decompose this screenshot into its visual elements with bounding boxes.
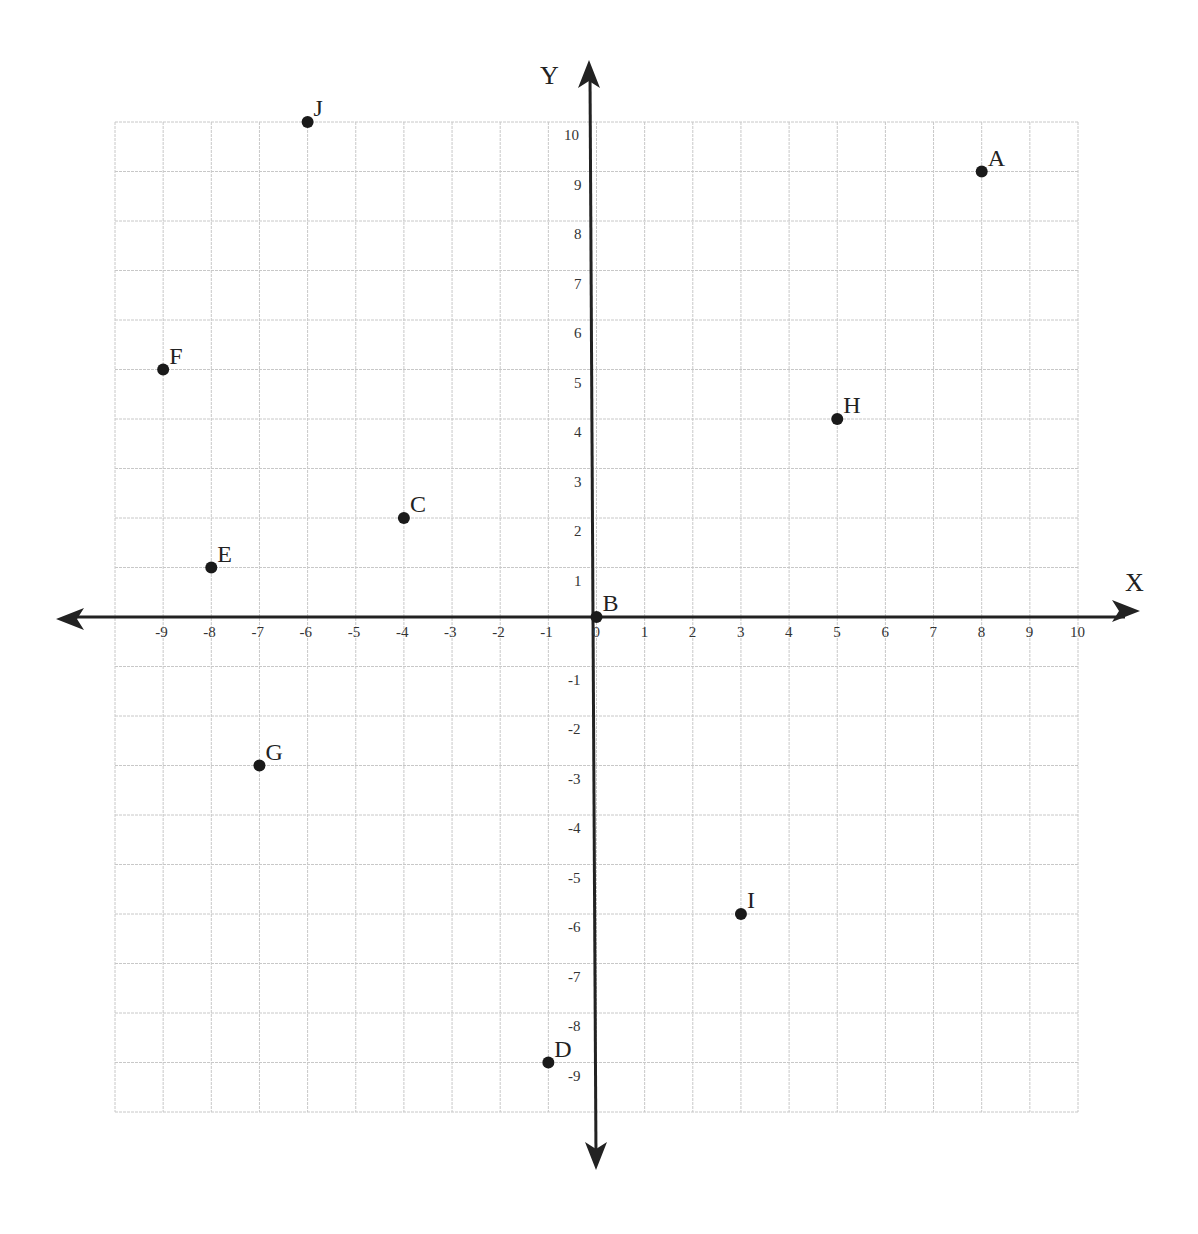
point-marker-icon (831, 413, 843, 425)
coordinate-plane: Y X -9-8-7-6-5-4-3-2-1012345678910 10987… (0, 0, 1198, 1234)
y-tick-label: 8 (574, 226, 582, 242)
x-tick-label: -8 (203, 624, 216, 640)
x-tick-label: -6 (300, 624, 313, 640)
y-tick-label: 7 (574, 276, 582, 292)
point-marker-icon (253, 760, 265, 772)
y-tick-label: -2 (568, 721, 581, 737)
y-tick-label: -4 (568, 820, 581, 836)
point-label: H (843, 392, 860, 418)
y-tick-label: 1 (574, 573, 582, 589)
y-tick-label: -5 (568, 870, 581, 886)
y-tick-label: 4 (574, 424, 582, 440)
point-label: A (988, 145, 1006, 171)
y-tick-label: -7 (568, 969, 581, 985)
point-j: J (302, 95, 323, 128)
y-tick-label: 6 (574, 325, 582, 341)
x-tick-label: 9 (1026, 624, 1034, 640)
y-tick-label: 9 (574, 177, 582, 193)
point-label: E (217, 541, 232, 567)
x-tick-label: 6 (881, 624, 889, 640)
point-marker-icon (735, 908, 747, 920)
point-label: F (169, 343, 182, 369)
point-marker-icon (976, 166, 988, 178)
point-d: D (542, 1036, 571, 1069)
x-tick-label: -2 (492, 624, 505, 640)
x-tick-label: -5 (348, 624, 361, 640)
x-tick-label: -7 (251, 624, 264, 640)
x-tick-labels: -9-8-7-6-5-4-3-2-1012345678910 (155, 624, 1085, 640)
y-tick-label: 5 (574, 375, 582, 391)
point-marker-icon (591, 611, 603, 623)
x-tick-label: 8 (978, 624, 986, 640)
point-label: G (265, 739, 282, 765)
point-marker-icon (157, 364, 169, 376)
x-tick-label: -1 (540, 624, 553, 640)
x-axis-right-arrow-icon (1112, 600, 1140, 622)
x-tick-label: 4 (785, 624, 793, 640)
x-tick-label: 2 (689, 624, 697, 640)
y-tick-label: -1 (568, 672, 581, 688)
x-tick-label: 7 (930, 624, 938, 640)
y-tick-label: -8 (568, 1018, 581, 1034)
point-h: H (831, 392, 860, 425)
y-tick-label: 2 (574, 523, 582, 539)
y-tick-label: -9 (568, 1068, 581, 1084)
point-a: A (976, 145, 1006, 178)
point-i: I (735, 887, 755, 920)
y-tick-label: -6 (568, 919, 581, 935)
point-f: F (157, 343, 182, 376)
y-tick-label: 3 (574, 474, 582, 490)
x-tick-label: -4 (396, 624, 409, 640)
point-label: I (747, 887, 755, 913)
x-tick-label: -3 (444, 624, 457, 640)
point-c: C (398, 491, 426, 524)
x-axis-left-arrow-icon (56, 608, 84, 630)
x-tick-label: 10 (1070, 624, 1085, 640)
point-e: E (205, 541, 232, 574)
point-marker-icon (302, 116, 314, 128)
x-tick-label: 5 (833, 624, 841, 640)
x-tick-label: -9 (155, 624, 168, 640)
point-marker-icon (542, 1057, 554, 1069)
y-tick-label: -3 (568, 771, 581, 787)
x-tick-label: 0 (593, 624, 601, 640)
point-marker-icon (398, 512, 410, 524)
point-label: C (410, 491, 426, 517)
point-label: D (554, 1036, 571, 1062)
y-tick-label: 10 (564, 127, 579, 143)
point-label: B (603, 590, 619, 616)
point-marker-icon (205, 562, 217, 574)
point-g: G (253, 739, 282, 772)
x-axis-name: X (1125, 568, 1144, 597)
point-label: J (314, 95, 323, 121)
x-tick-label: 1 (641, 624, 649, 640)
y-axis-name: Y (540, 61, 559, 90)
x-tick-label: 3 (737, 624, 745, 640)
